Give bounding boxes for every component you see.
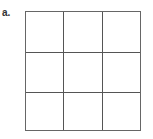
grid-horizontal-line-1 xyxy=(26,52,140,53)
grid-3x3 xyxy=(25,11,141,131)
grid-vertical-line-1 xyxy=(63,12,64,130)
figure-label: a. xyxy=(2,7,10,18)
grid-horizontal-line-2 xyxy=(26,92,140,93)
grid-vertical-line-2 xyxy=(102,12,103,130)
